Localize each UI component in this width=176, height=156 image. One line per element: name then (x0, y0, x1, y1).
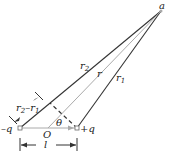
point-a-label: a (159, 0, 165, 11)
r1-subscript: 1 (121, 77, 125, 85)
r2-minus-r1-label: r2–r1 (16, 102, 40, 115)
perpendicular-dashed-line (50, 103, 77, 128)
r1-label: r1 (116, 72, 125, 85)
l-arrowhead-right (70, 143, 76, 148)
r2-subscript: 2 (84, 65, 90, 73)
r2-label: r2 (80, 60, 90, 73)
theta-label: θ (56, 117, 62, 128)
l-arrowhead-left (21, 143, 27, 148)
diagram-svg: a r2 r r1 r2–r1 –q +q O θ l (0, 0, 176, 156)
negative-charge-label: –q (1, 123, 12, 134)
positive-charge-label: +q (80, 123, 95, 134)
diff-sub1: 1 (35, 107, 39, 115)
r-line (48, 11, 161, 128)
separation-label: l (44, 139, 47, 150)
dipole-diagram: a r2 r r1 r2–r1 –q +q O θ l (0, 0, 176, 156)
axis-arrowhead (68, 126, 74, 131)
r2-line (20, 11, 161, 128)
r1-line (77, 11, 161, 128)
diff-arrow-upper (33, 97, 39, 101)
negative-charge-marker (18, 126, 22, 130)
r-label: r (97, 68, 103, 79)
positive-charge-marker (75, 126, 79, 130)
